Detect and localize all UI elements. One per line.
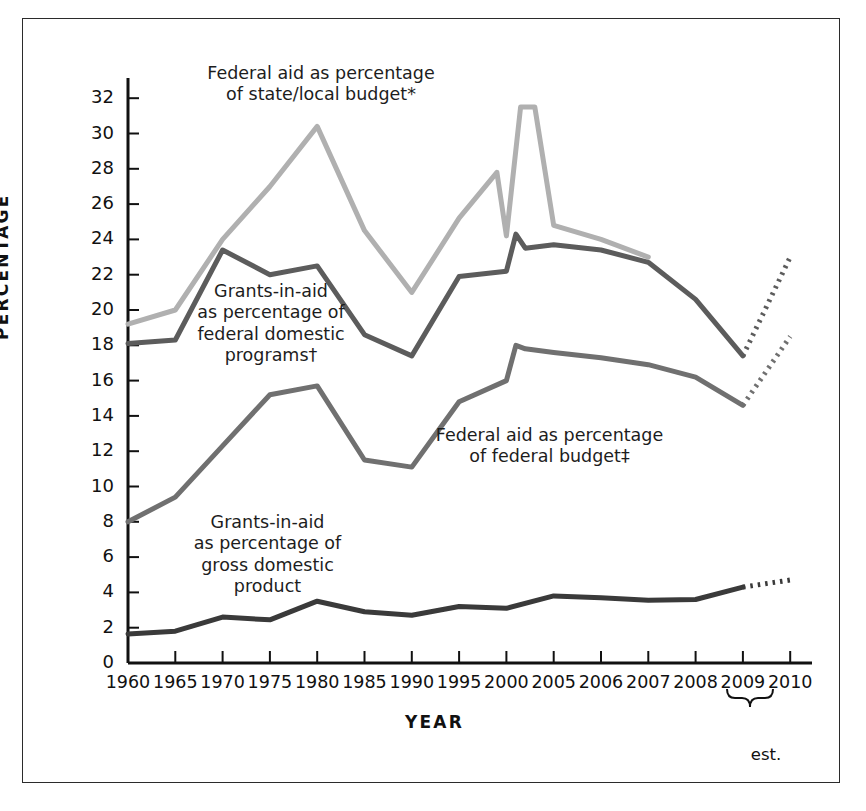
series-estimate-dashed [743, 580, 790, 587]
x-tick-label: 2006 [575, 672, 627, 692]
y-tick-label: 6 [80, 545, 114, 566]
y-tick-label: 4 [80, 580, 114, 601]
y-tick-label: 30 [80, 122, 114, 143]
y-tick-label: 18 [80, 333, 114, 354]
y-tick-label: 28 [80, 157, 114, 178]
y-tick-label: 22 [80, 263, 114, 284]
x-tick-label: 2007 [622, 672, 674, 692]
y-tick-label: 16 [80, 369, 114, 390]
series-estimate-dashed [743, 337, 790, 406]
annotation-gross-domestic-product: Grants-in-aid as percentage of gross dom… [180, 512, 355, 597]
annotation-federal-budget: Federal aid as percentage of federal bud… [417, 425, 682, 468]
x-tick-label: 2008 [670, 672, 722, 692]
y-axis-title: PERCENTAGE [0, 194, 12, 340]
x-axis-ticks [128, 651, 790, 663]
x-tick-label: 1995 [433, 672, 485, 692]
x-tick-label: 1970 [197, 672, 249, 692]
y-tick-label: 32 [80, 86, 114, 107]
estimate-label: est. [740, 745, 792, 764]
y-tick-label: 10 [80, 475, 114, 496]
y-tick-label: 12 [80, 439, 114, 460]
y-axis-ticks [128, 98, 139, 628]
x-tick-label: 2005 [528, 672, 580, 692]
annotation-state-local-budget: Federal aid as percentage of state/local… [196, 63, 446, 106]
y-tick-label: 2 [80, 616, 114, 637]
x-tick-label: 1985 [339, 672, 391, 692]
y-tick-label: 8 [80, 510, 114, 531]
x-tick-label: 2010 [764, 672, 816, 692]
x-tick-label: 2009 [717, 672, 769, 692]
x-tick-label: 1960 [102, 672, 154, 692]
y-tick-label: 24 [80, 227, 114, 248]
y-tick-label: 26 [80, 192, 114, 213]
x-tick-label: 2000 [480, 672, 532, 692]
x-axis-title: YEAR [405, 712, 464, 732]
y-tick-label: 0 [80, 651, 114, 672]
x-tick-label: 1990 [386, 672, 438, 692]
series-estimate-dashed [743, 257, 790, 356]
y-tick-label: 20 [80, 298, 114, 319]
x-tick-label: 1975 [244, 672, 296, 692]
x-tick-label: 1980 [291, 672, 343, 692]
x-tick-label: 1965 [149, 672, 201, 692]
annotation-federal-domestic-programs: Grants-in-aid as percentage of federal d… [176, 281, 366, 366]
y-tick-label: 14 [80, 404, 114, 425]
